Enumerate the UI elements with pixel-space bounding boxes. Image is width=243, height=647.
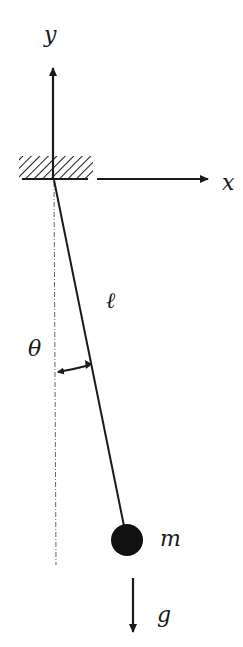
length-label: ℓ (106, 288, 116, 313)
pendulum-bob (111, 524, 143, 556)
vertical-reference-line (54, 182, 56, 565)
gravity-label: g (157, 602, 171, 627)
angle-label: θ (28, 336, 41, 361)
support-hatch (19, 156, 93, 179)
pendulum-rod (54, 180, 124, 526)
y-axis-label: y (43, 22, 57, 47)
mass-label: m (160, 526, 181, 551)
x-axis-label: x (222, 170, 235, 195)
angle-arc (58, 360, 92, 372)
pendulum-diagram: y x ℓ θ m g (0, 0, 243, 647)
